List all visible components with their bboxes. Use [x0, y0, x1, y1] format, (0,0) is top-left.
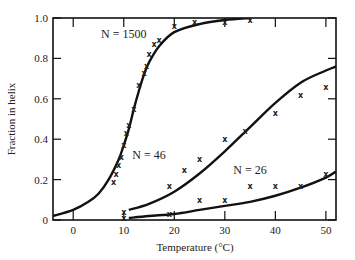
- helix-fraction-chart: 01020304050 00.20.40.60.81.0 xxxxxxxxxxx…: [0, 0, 355, 260]
- y-axis-title: Fraction in helix: [5, 82, 17, 155]
- data-point-marker: x: [298, 91, 304, 100]
- series-labels: N = 1500N = 46N = 26: [101, 27, 267, 176]
- data-point-marker: x: [222, 135, 228, 144]
- y-tick-label: 0: [43, 214, 49, 226]
- data-point-marker: x: [157, 36, 163, 45]
- series-curves: [53, 18, 336, 218]
- data-point-marker: x: [248, 16, 254, 25]
- data-point-marker: x: [222, 196, 228, 205]
- data-point-marker: x: [323, 170, 329, 179]
- x-tick-label: 20: [169, 224, 181, 236]
- data-point-marker: x: [114, 170, 120, 179]
- series-label: N = 26: [233, 163, 266, 177]
- x-axis-title: Temperature (°C): [156, 241, 234, 254]
- data-point-marker: x: [119, 153, 125, 162]
- data-point-marker: x: [298, 182, 304, 191]
- series-curve-2: [129, 172, 336, 218]
- data-point-marker: x: [197, 196, 203, 205]
- data-point-marker: x: [222, 18, 228, 27]
- data-point-marker: x: [111, 178, 117, 187]
- data-point-marker: x: [126, 121, 132, 130]
- x-tick-label: 0: [70, 224, 76, 236]
- y-tick-label: 0.2: [34, 174, 48, 186]
- data-point-marker: x: [242, 127, 248, 136]
- data-point-marker: x: [167, 210, 173, 219]
- data-point-marker: x: [121, 141, 127, 150]
- data-points: xxxxxxxxxxxxxxxxxxxxxxxxxxxxxxxxxxx: [111, 16, 329, 223]
- data-point-marker: x: [182, 166, 188, 175]
- data-point-marker: x: [273, 182, 279, 191]
- y-axis-ticks: 00.20.40.60.81.0: [34, 12, 336, 226]
- data-point-marker: x: [116, 161, 122, 170]
- x-tick-label: 50: [320, 224, 332, 236]
- data-point-marker: x: [131, 105, 137, 114]
- x-tick-label: 30: [219, 224, 231, 236]
- y-tick-label: 0.8: [34, 52, 48, 64]
- data-point-marker: x: [273, 109, 279, 118]
- y-tick-label: 0.4: [34, 133, 48, 145]
- data-point-marker: x: [323, 83, 329, 92]
- series-curve-1: [129, 66, 336, 209]
- series-label: N = 1500: [101, 27, 146, 41]
- data-point-marker: x: [172, 22, 178, 31]
- series-label: N = 46: [132, 148, 165, 162]
- x-tick-label: 10: [118, 224, 130, 236]
- data-point-marker: x: [136, 81, 142, 90]
- data-point-marker: x: [146, 50, 152, 59]
- x-tick-label: 40: [270, 224, 282, 236]
- data-point-marker: x: [248, 182, 254, 191]
- data-point-marker: x: [192, 18, 198, 27]
- data-point-marker: x: [144, 62, 150, 71]
- y-tick-label: 0.6: [34, 93, 48, 105]
- data-point-marker: x: [121, 214, 127, 223]
- data-point-marker: x: [124, 129, 130, 138]
- data-point-marker: x: [197, 155, 203, 164]
- y-tick-label: 1.0: [34, 12, 48, 24]
- data-point-marker: x: [167, 182, 173, 191]
